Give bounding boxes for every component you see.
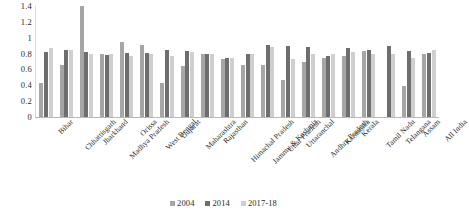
y-axis-tick-label: 0.8	[21, 49, 32, 58]
bar-2017-18	[149, 54, 153, 117]
bar-2017-18	[230, 58, 234, 117]
plot-area: 1.41.210.80.60.40.20	[0, 6, 447, 118]
bar-2017-18	[89, 54, 93, 117]
bar-group	[197, 6, 217, 117]
bar-2004	[160, 83, 164, 117]
bar-2004	[181, 66, 185, 117]
bar-2004	[422, 54, 426, 117]
y-axis-tick-label: 0.2	[21, 97, 32, 106]
bar-2017-18	[411, 58, 415, 117]
bar-2004	[140, 45, 144, 117]
bar-2004	[402, 86, 406, 117]
bar-2014	[64, 50, 68, 117]
bar-2014	[145, 53, 149, 117]
bar-2004	[80, 6, 84, 117]
legend-label: 2004	[177, 199, 194, 208]
bar-group	[217, 6, 237, 117]
chart-legend: 200420142017-18	[0, 199, 447, 208]
bar-2014	[306, 47, 310, 117]
bar-2014	[246, 54, 250, 117]
legend-item-2017-18[interactable]: 2017-18	[241, 199, 277, 208]
bar-group	[258, 6, 278, 117]
bar-group	[137, 6, 157, 117]
bar-2014	[125, 53, 129, 117]
bar-group	[338, 6, 358, 117]
bar-2017-18	[170, 56, 174, 117]
bar-2014	[266, 45, 270, 117]
y-axis-tick-label: 1	[28, 33, 32, 42]
bar-2017-18	[109, 54, 113, 117]
bar-2017-18	[190, 52, 194, 117]
bar-2004	[261, 65, 265, 117]
bar-2017-18	[371, 54, 375, 117]
bar-group	[298, 6, 318, 117]
bar-2004	[60, 65, 64, 117]
bar-2014	[387, 46, 391, 117]
bar-group	[117, 6, 137, 117]
bar-2014	[367, 50, 371, 117]
bar-2014	[165, 50, 169, 117]
y-axis-tick-label: 0	[28, 113, 32, 122]
bar-2014	[407, 51, 411, 117]
bar-2014	[205, 54, 209, 117]
bar-2004	[302, 62, 306, 118]
bar-2017-18	[291, 59, 295, 117]
bar-2014	[44, 52, 48, 117]
bar-2014	[427, 53, 431, 117]
legend-swatch-icon	[205, 201, 210, 206]
bar-2004	[201, 54, 205, 117]
bar-2004	[362, 51, 366, 117]
bar-group	[379, 6, 399, 117]
legend-label: 2017-18	[248, 199, 277, 208]
bar-group	[76, 6, 96, 117]
legend-item-2014[interactable]: 2014	[205, 199, 229, 208]
x-axis-label: Gujarat	[180, 118, 202, 140]
bar-2014	[84, 52, 88, 117]
bar-2017-18	[250, 54, 254, 117]
bar-2014	[326, 56, 330, 117]
bar-2017-18	[210, 54, 214, 117]
bar-group	[238, 6, 258, 117]
bar-2017-18	[270, 47, 274, 117]
bar-2004	[100, 54, 104, 117]
bar-2017-18	[331, 54, 335, 117]
bar-2017-18	[391, 54, 395, 117]
bar-group	[36, 6, 56, 117]
bar-2004	[342, 56, 346, 117]
bar-group	[177, 6, 197, 117]
legend-swatch-icon	[170, 201, 175, 206]
bar-2014	[225, 58, 229, 117]
bar-2017-18	[69, 50, 73, 117]
x-axis-label: Bihar	[57, 118, 75, 136]
bar-group	[56, 6, 76, 117]
bar-group	[157, 6, 177, 117]
bar-group	[399, 6, 419, 117]
bar-2017-18	[351, 52, 355, 117]
bar-2014	[346, 48, 350, 117]
bar-2014	[105, 55, 109, 117]
bar-2004	[39, 83, 43, 117]
bar-groups-container	[36, 6, 439, 117]
bar-2017-18	[311, 54, 315, 117]
y-axis-tick-label: 1.2	[21, 18, 32, 27]
legend-swatch-icon	[241, 201, 246, 206]
y-axis-tick-label: 1.4	[21, 2, 32, 11]
y-axis-tick-labels: 1.41.210.80.60.40.20	[10, 6, 32, 118]
x-axis-category-labels: BiharChhattisgarhJharkhandMadhya Pradesh…	[36, 118, 439, 180]
bar-group	[278, 6, 298, 117]
legend-label: 2014	[212, 199, 229, 208]
bar-group	[419, 6, 439, 117]
bar-group	[359, 6, 379, 117]
bar-group	[318, 6, 338, 117]
bar-2014	[185, 51, 189, 117]
bar-2004	[322, 58, 326, 117]
bar-2017-18	[129, 56, 133, 117]
legend-item-2004[interactable]: 2004	[170, 199, 194, 208]
bar-2014	[286, 46, 290, 117]
bar-2017-18	[432, 50, 436, 117]
x-axis-label: All India	[443, 118, 468, 143]
y-axis-tick-label: 0.4	[21, 81, 32, 90]
y-axis-tick-label: 0.6	[21, 65, 32, 74]
bar-2017-18	[49, 48, 53, 117]
